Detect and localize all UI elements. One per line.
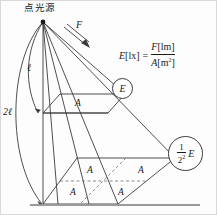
diagram-canvas: 点光源 F ℓ 2ℓ A A A A A E 1 22 E E[lx] = F[…	[0, 0, 217, 215]
formula-left-hand-side: E[lx]	[119, 50, 140, 61]
near-plane-area-label: A	[75, 99, 81, 109]
near-plane-outline	[43, 94, 125, 113]
formula-numerator: F[lm]	[151, 42, 174, 53]
formula-denominator-unit-close: ]	[171, 57, 174, 68]
point-light-source-dot	[41, 20, 46, 25]
formula-equals-sign: =	[143, 50, 149, 61]
far-plane-area-label-top-right: A	[138, 166, 144, 176]
far-plane-area-label-bottom-left: A	[70, 188, 76, 198]
distance-near-label: ℓ	[27, 63, 31, 73]
far-illuminance-denominator-exponent: 2	[182, 154, 185, 160]
arrowhead-near	[35, 108, 41, 113]
far-illuminance-fraction-stack: 1 22	[177, 143, 187, 165]
far-plane-area-label-top-left: A	[87, 166, 93, 176]
near-illuminance-badge: E	[112, 78, 133, 99]
far-illuminance-fraction: 1 22 E	[177, 143, 195, 165]
flux-arrowhead	[81, 39, 90, 48]
near-plane	[43, 94, 125, 113]
arc-arrowheads	[35, 108, 42, 206]
point-light-source-label: 点光源	[24, 3, 56, 13]
arc-distance-far	[16, 22, 43, 204]
illuminance-formula: E[lx] = F[lm] A[m2]	[119, 42, 175, 68]
formula-denominator-unit: [m	[157, 57, 168, 68]
far-illuminance-symbol: E	[188, 148, 194, 159]
measurement-arcs	[16, 22, 43, 204]
formula-numerator-unit: [lm]	[157, 41, 174, 52]
far-illuminance-badge: 1 22 E	[168, 136, 203, 171]
far-plane-area-label-bottom-right: A	[118, 188, 124, 198]
near-illuminance-label: E	[119, 83, 125, 94]
formula-lhs-unit: [lx]	[125, 50, 139, 61]
inverse-square-law-illustration	[0, 0, 217, 215]
formula-denominator: A[m2]	[151, 57, 175, 69]
distance-far-label: 2ℓ	[3, 107, 12, 117]
formula-fraction: F[lm] A[m2]	[151, 42, 175, 68]
far-illuminance-denominator-group: 22	[177, 154, 187, 165]
far-illuminance-numerator: 1	[178, 143, 185, 152]
formula-fraction-bar	[151, 54, 175, 55]
flux-arrow-label: F	[76, 20, 82, 30]
